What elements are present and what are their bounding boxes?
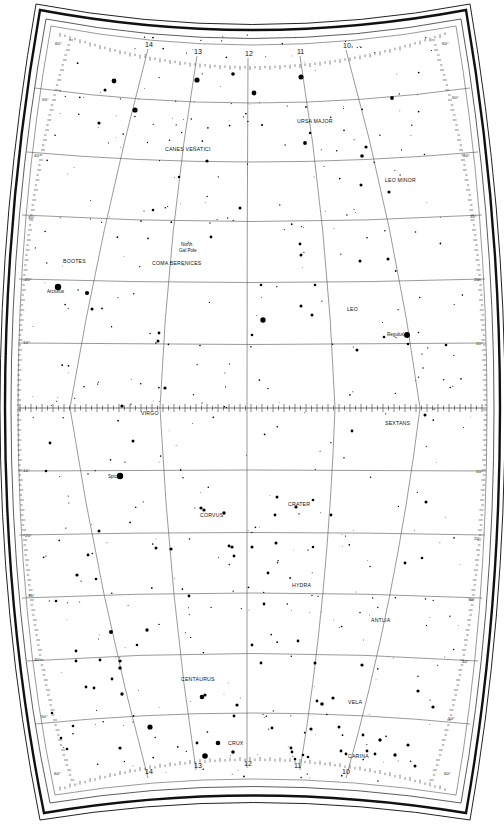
faint-star [264, 717, 265, 718]
faint-star [101, 308, 103, 310]
constellation-label: CENTAURUS [181, 676, 215, 682]
faint-star [366, 237, 368, 239]
faint-star [393, 658, 394, 659]
faint-star [470, 417, 471, 418]
faint-star [295, 37, 296, 38]
faint-star [453, 649, 455, 651]
faint-star [340, 254, 341, 255]
faint-star [91, 553, 93, 555]
faint-star [133, 293, 135, 295]
faint-star [277, 426, 279, 428]
faint-star [190, 637, 191, 638]
faint-star [182, 477, 183, 478]
star [274, 514, 277, 517]
faint-star [417, 94, 418, 95]
faint-star [155, 342, 157, 344]
faint-star [51, 405, 52, 406]
faint-star [229, 363, 230, 364]
faint-star [143, 210, 144, 211]
faint-star [377, 668, 379, 670]
star [93, 687, 96, 690]
star [393, 753, 396, 756]
faint-star [424, 154, 425, 155]
faint-star [265, 715, 267, 717]
faint-star [426, 446, 427, 447]
faint-star [138, 99, 139, 100]
faint-star [232, 774, 233, 775]
constellation-label: SEXTANS [385, 420, 411, 426]
faint-star [439, 542, 440, 543]
star [416, 689, 419, 692]
faint-star [429, 700, 430, 701]
star [421, 557, 424, 560]
constellation-label: BOOTES [63, 258, 86, 264]
faint-star [98, 127, 99, 128]
star [294, 758, 297, 761]
faint-star [117, 420, 119, 422]
faint-star [106, 542, 107, 543]
dec-label: 50° [41, 714, 48, 719]
faint-star [250, 104, 251, 105]
faint-star [445, 517, 446, 518]
dec-label: 20° [25, 277, 32, 282]
faint-star [95, 470, 96, 471]
faint-star [44, 283, 45, 284]
faint-star [355, 212, 356, 213]
star [390, 96, 394, 100]
faint-star [418, 72, 420, 74]
dec-label: 60° [444, 771, 451, 776]
faint-star [221, 40, 222, 41]
faint-star [123, 725, 124, 726]
faint-star [213, 417, 215, 419]
faint-star [98, 381, 99, 382]
star [300, 305, 303, 308]
star [414, 765, 417, 768]
faint-star [394, 170, 395, 171]
constellation-label: CRUX [228, 740, 244, 746]
star [260, 317, 265, 322]
faint-star [83, 97, 84, 98]
faint-star [426, 202, 427, 203]
star [85, 291, 89, 295]
faint-star [251, 532, 252, 533]
faint-star [152, 543, 154, 545]
faint-star [305, 106, 307, 108]
faint-star [138, 690, 139, 691]
constellation-label: HYDRA [292, 582, 311, 588]
faint-star [124, 461, 125, 462]
faint-star [332, 343, 333, 344]
faint-star [384, 230, 386, 232]
faint-star [353, 530, 354, 531]
faint-star [352, 391, 353, 392]
faint-star [188, 607, 189, 608]
star [251, 334, 254, 337]
faint-star [63, 747, 64, 748]
star [120, 404, 123, 407]
faint-star [341, 775, 343, 777]
faint-star [440, 217, 441, 218]
faint-star [224, 373, 225, 374]
faint-star [182, 588, 184, 590]
faint-star [291, 656, 292, 657]
faint-star [64, 304, 66, 306]
faint-star [343, 457, 344, 458]
faint-star [185, 632, 186, 633]
faint-star [77, 784, 78, 785]
dec-label: 60° [54, 771, 61, 776]
faint-star [160, 455, 162, 457]
constellation-label: LEO MINOR [385, 177, 416, 183]
faint-star [243, 116, 244, 117]
faint-star [225, 386, 226, 387]
faint-star [101, 222, 102, 223]
faint-star [74, 167, 75, 168]
faint-star [231, 103, 232, 104]
faint-star [277, 562, 279, 564]
faint-star [359, 612, 360, 613]
faint-star [273, 710, 274, 711]
faint-star [205, 202, 206, 203]
faint-star [460, 378, 462, 380]
faint-star [304, 62, 305, 63]
faint-star [68, 502, 69, 503]
faint-star [152, 757, 154, 759]
faint-star [382, 322, 383, 323]
